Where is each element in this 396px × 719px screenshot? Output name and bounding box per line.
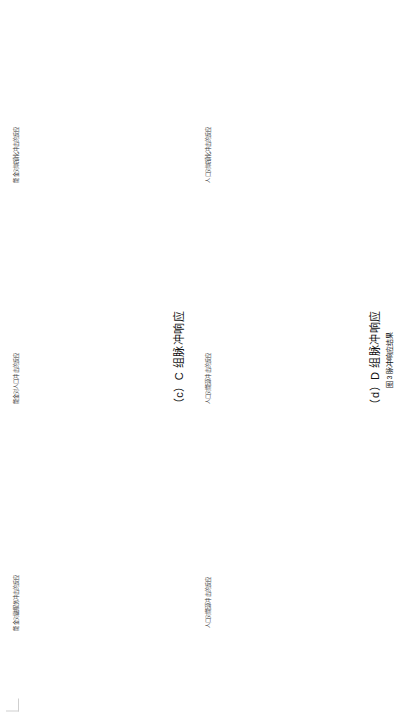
panel-title: 能金对融服务冲击的反应	[12, 499, 19, 705]
group-title-d: （d）D 组脉冲响应	[366, 0, 382, 719]
page-root: 能金对融服务冲击的反应 能金对人口冲击的反应 能金对城镇化冲击的反应 （c）C …	[0, 0, 396, 719]
panel-c2: 能金对人口冲击的反应	[12, 275, 162, 481]
figure-sheet: 能金对融服务冲击的反应 能金对人口冲击的反应 能金对城镇化冲击的反应 （c）C …	[0, 0, 396, 719]
panel-title: 能金对城镇化冲击的反应	[12, 51, 19, 257]
panel-d1: 人口对能源冲击的反应	[204, 499, 354, 705]
plot-area	[216, 509, 320, 671]
panel-d3: 人口对城镇化冲击的反应	[204, 51, 354, 257]
plot-area	[24, 285, 128, 447]
panel-title: 人口对城镇化冲击的反应	[204, 51, 211, 257]
panel-title: 能金对人口冲击的反应	[12, 275, 19, 481]
panel-d2: 人口对能源冲击的反应	[204, 275, 354, 481]
panel-c3: 能金对城镇化冲击的反应	[12, 51, 162, 257]
plot-area	[24, 61, 128, 223]
panel-c1: 能金对融服务冲击的反应	[12, 499, 162, 705]
group-title-c: （c）C 组脉冲响应	[170, 0, 186, 719]
panel-title: 人口对能源冲击的反应	[204, 499, 211, 705]
panel-title: 人口对能源冲击的反应	[204, 275, 211, 481]
plot-area	[24, 509, 128, 671]
group-c: 能金对融服务冲击的反应 能金对人口冲击的反应 能金对城镇化冲击的反应 （c）C …	[4, 0, 190, 719]
group-d: 人口对能源冲击的反应 人口对能源冲击的反应 人口对城镇化冲击的反应 （d）D 组…	[196, 0, 388, 719]
plot-area	[216, 285, 320, 447]
plot-area	[216, 61, 320, 223]
figure-caption: 图 3 脉冲响应结果	[384, 0, 394, 719]
